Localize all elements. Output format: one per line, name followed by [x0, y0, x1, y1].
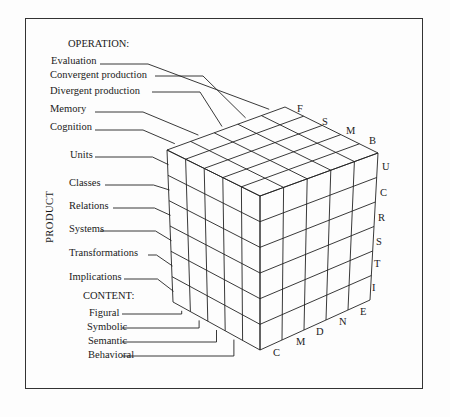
product-code-u: U — [382, 162, 390, 173]
product-heading: PRODUCT — [44, 190, 55, 243]
content-label-behavioral: Behavioral — [88, 350, 134, 361]
leader-lines — [95, 64, 269, 356]
product-label-units: Units — [70, 150, 93, 161]
content-code-n: N — [339, 317, 347, 328]
content-label-semantic: Semantic — [88, 336, 127, 347]
operation-code-b: B — [369, 136, 376, 147]
product-label-implications: Implications — [69, 272, 122, 283]
operation-label-cognition: Cognition — [50, 122, 92, 133]
product-code-s: S — [376, 237, 382, 248]
product-label-classes: Classes — [69, 178, 101, 189]
product-label-relations: Relations — [69, 201, 109, 212]
content-label-figural: Figural — [89, 308, 119, 319]
content-code-m: M — [296, 337, 305, 348]
operation-label-evaluation: Evaluation — [51, 56, 97, 67]
product-code-r: R — [378, 213, 385, 224]
content-code-d: D — [316, 327, 324, 338]
product-label-systems: Systems — [69, 224, 104, 235]
product-code-c: C — [380, 188, 387, 199]
operation-code-s: S — [322, 117, 328, 128]
content-code-e: E — [360, 307, 366, 318]
operation-label-divergent: Divergent production — [50, 86, 140, 97]
structure-of-intellect-cube — [167, 107, 378, 350]
content-label-symbolic: Symbolic — [87, 322, 127, 333]
product-label-transformations: Transformations — [69, 248, 138, 259]
operation-label-memory: Memory — [50, 104, 86, 115]
content-heading: CONTENT: — [83, 291, 134, 302]
product-code-t: T — [374, 259, 380, 270]
operation-code-m: M — [346, 126, 355, 137]
operation-code-f: F — [297, 104, 303, 115]
operation-label-convergent: Convergent production — [50, 70, 147, 81]
product-code-i: I — [372, 283, 376, 294]
operation-heading: OPERATION: — [68, 39, 129, 50]
content-code-c: C — [273, 348, 280, 359]
